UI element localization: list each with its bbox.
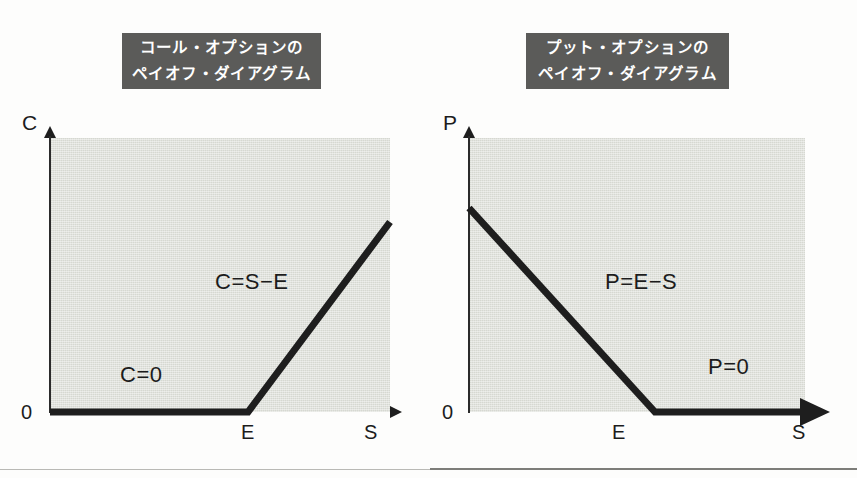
put-x-axis-tick-label: S bbox=[792, 422, 805, 442]
put-title-line-2: ペイオフ・ダイアグラム bbox=[536, 61, 719, 87]
put-region-label-right: P=0 bbox=[708, 356, 749, 378]
call-y-axis-line bbox=[49, 136, 51, 413]
call-x-axis-tick-label: S bbox=[364, 422, 377, 442]
call-title-line-1: コール・オプションの bbox=[132, 35, 311, 61]
put-y-axis-line bbox=[468, 136, 470, 413]
page-divider-rule-emphasis bbox=[430, 468, 857, 470]
call-region-label-left: C=0 bbox=[120, 364, 162, 386]
put-region-label-left: P=E−S bbox=[605, 271, 677, 293]
put-option-panel: プット・オプションの ペイオフ・ダイアグラム P P=E−S P=0 0 E S bbox=[430, 0, 857, 478]
put-origin-label: 0 bbox=[442, 402, 453, 422]
call-y-axis-label: C bbox=[22, 112, 37, 133]
call-region-label-right: C=S−E bbox=[215, 271, 288, 293]
call-strike-tick-label: E bbox=[241, 422, 254, 442]
call-title-line-2: ペイオフ・ダイアグラム bbox=[132, 61, 311, 87]
put-y-axis-label: P bbox=[443, 112, 457, 133]
put-title-box: プット・オプションの ペイオフ・ダイアグラム bbox=[526, 33, 729, 89]
payoff-diagram-figure: コール・オプションの ペイオフ・ダイアグラム C C=S−E C=0 0 E S… bbox=[0, 0, 857, 478]
put-title-line-1: プット・オプションの bbox=[536, 35, 719, 61]
call-title-box: コール・オプションの ペイオフ・ダイアグラム bbox=[122, 33, 321, 89]
call-origin-label: 0 bbox=[21, 402, 32, 422]
call-x-axis-arrow-icon bbox=[390, 406, 402, 418]
call-option-panel: コール・オプションの ペイオフ・ダイアグラム C C=S−E C=0 0 E S bbox=[0, 0, 430, 478]
put-strike-tick-label: E bbox=[612, 422, 625, 442]
